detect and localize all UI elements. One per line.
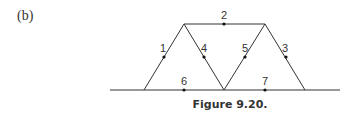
- node-4: [202, 55, 205, 58]
- member-label-5: 5: [242, 42, 248, 54]
- node-6: [182, 88, 185, 91]
- member-label-7: 7: [262, 75, 268, 87]
- member-label-6: 6: [181, 75, 187, 87]
- member-label-4: 4: [201, 42, 207, 54]
- node-2: [222, 22, 225, 25]
- node-1: [162, 55, 165, 58]
- member-label-1: 1: [160, 42, 166, 54]
- member-label-2: 2: [221, 9, 227, 21]
- node-7: [263, 88, 266, 91]
- figure-caption: Figure 9.20.: [0, 98, 357, 111]
- node-3: [284, 55, 287, 58]
- node-5: [243, 55, 246, 58]
- member-label-3: 3: [282, 42, 288, 54]
